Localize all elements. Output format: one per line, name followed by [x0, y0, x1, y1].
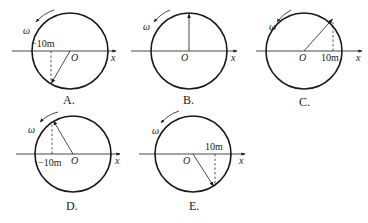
- panel-c: ω O 10m x C.: [256, 10, 362, 109]
- projection-label: −10m: [31, 38, 55, 49]
- projection-label: −10m: [38, 157, 62, 168]
- projection-label: 10m: [321, 52, 339, 63]
- x-axis-label: x: [230, 52, 236, 63]
- x-axis-label: x: [110, 52, 116, 63]
- omega-label: ω: [143, 21, 150, 32]
- option-label: A.: [63, 93, 75, 107]
- option-label: B.: [183, 93, 194, 107]
- origin-label: O: [299, 52, 306, 63]
- rotation-direction-arrow-icon: [161, 111, 179, 123]
- panel-b: ω O x B.: [131, 10, 237, 107]
- option-label: C.: [299, 95, 310, 109]
- origin-label: O: [183, 155, 190, 166]
- origin-label: O: [71, 155, 78, 166]
- rotating-radius-arrow: [52, 51, 71, 83]
- panel-d: ω −10m O x D.: [16, 112, 120, 213]
- x-axis-label: x: [238, 155, 244, 166]
- x-axis-label: x: [114, 155, 120, 166]
- x-axis-label: x: [355, 52, 361, 63]
- origin-label: O: [71, 52, 78, 63]
- omega-label: ω: [28, 124, 35, 135]
- rotation-direction-arrow-icon: [36, 10, 54, 22]
- omega-label: ω: [23, 25, 30, 36]
- option-label: D.: [66, 199, 78, 213]
- rotating-radius-arrow: [304, 19, 333, 51]
- phasor-diagram-options: ω −10m O x A. ω O x B. ω O 10m x C. ω: [0, 0, 368, 223]
- origin-label: O: [181, 52, 188, 63]
- rotating-radius-arrow: [193, 154, 214, 186]
- option-label: E.: [189, 199, 199, 213]
- panel-a: ω −10m O x A.: [12, 10, 116, 107]
- rotating-radius-arrow: [54, 121, 74, 154]
- omega-label: ω: [152, 125, 159, 136]
- projection-label: 10m: [205, 141, 223, 152]
- panel-e: ω O 10m x E.: [139, 111, 245, 213]
